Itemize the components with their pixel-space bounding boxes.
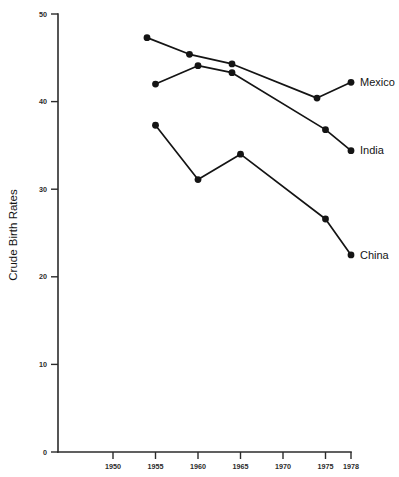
y-axis-title: Crude Birth Rates xyxy=(7,189,19,281)
data-point-india xyxy=(348,147,355,154)
y-tick-label: 10 xyxy=(39,360,47,369)
x-tick-label: 1965 xyxy=(233,462,249,471)
y-tick-label: 50 xyxy=(39,10,47,19)
data-series-group xyxy=(144,34,355,258)
x-tick-label: 1978 xyxy=(343,462,359,471)
data-point-mexico xyxy=(314,95,321,102)
series-line-india xyxy=(156,66,352,151)
data-point-china xyxy=(348,252,355,259)
axes-group xyxy=(58,14,351,452)
y-tick-label: 40 xyxy=(39,97,47,106)
x-tick-label: 1960 xyxy=(190,462,206,471)
y-tick-label: 30 xyxy=(39,185,47,194)
y-axis-tick-labels: 01020304050 xyxy=(39,10,47,457)
series-line-mexico xyxy=(147,38,351,98)
data-point-india xyxy=(195,62,202,69)
data-point-india xyxy=(152,81,159,88)
data-point-china xyxy=(152,122,159,129)
series-labels-group: MexicoIndiaChina xyxy=(360,76,395,261)
x-tick-label: 1950 xyxy=(105,462,121,471)
series-label-china: China xyxy=(360,249,390,261)
data-point-india xyxy=(229,69,236,76)
data-point-mexico xyxy=(144,34,151,41)
crude-birth-rates-line-chart: 01020304050 1950195519601965197019751978… xyxy=(0,0,399,477)
data-point-china xyxy=(195,176,202,183)
chart-canvas: 01020304050 1950195519601965197019751978… xyxy=(0,0,399,477)
data-point-india xyxy=(322,126,329,133)
tick-marks-group xyxy=(51,14,351,459)
data-point-china xyxy=(237,151,244,158)
y-tick-label: 0 xyxy=(43,448,47,457)
series-line-china xyxy=(156,125,352,255)
x-tick-label: 1970 xyxy=(275,462,291,471)
y-tick-label: 20 xyxy=(39,272,47,281)
data-point-mexico xyxy=(348,79,355,86)
series-label-india: India xyxy=(360,144,385,156)
x-axis-tick-labels: 1950195519601965197019751978 xyxy=(105,462,359,471)
x-tick-label: 1955 xyxy=(148,462,164,471)
data-point-mexico xyxy=(229,61,236,68)
series-label-mexico: Mexico xyxy=(360,76,395,88)
x-tick-label: 1975 xyxy=(318,462,334,471)
data-point-china xyxy=(322,216,329,223)
data-point-mexico xyxy=(186,51,193,58)
